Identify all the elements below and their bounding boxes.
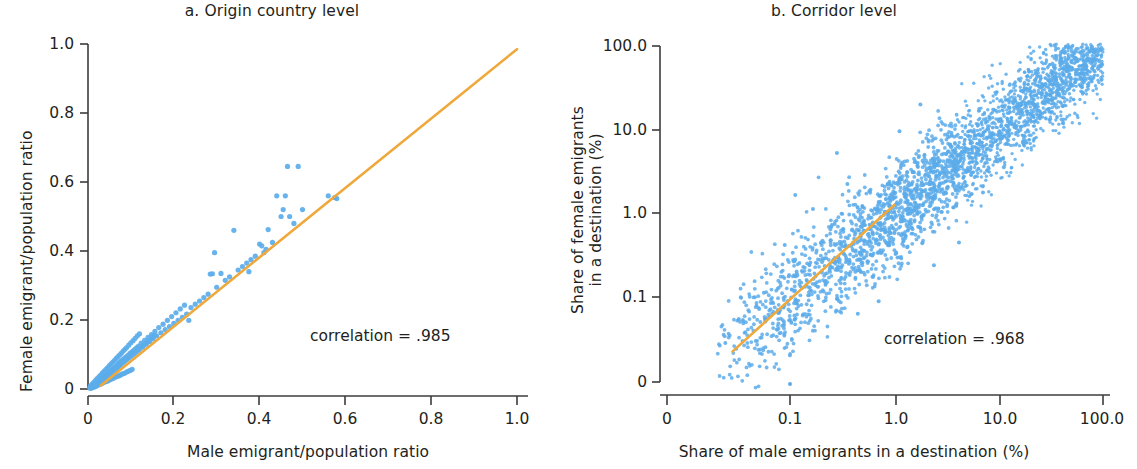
data-point bbox=[1083, 101, 1086, 104]
data-point bbox=[987, 190, 990, 193]
data-point bbox=[771, 301, 775, 305]
data-point bbox=[799, 321, 803, 325]
data-point bbox=[912, 193, 916, 197]
data-point bbox=[984, 129, 987, 132]
data-point bbox=[965, 104, 968, 107]
data-point bbox=[1036, 84, 1039, 87]
data-point bbox=[1014, 80, 1017, 83]
panel-a-data-points bbox=[87, 164, 339, 391]
data-point bbox=[859, 269, 863, 273]
data-point bbox=[1035, 110, 1038, 113]
data-point bbox=[160, 322, 165, 327]
data-point bbox=[1023, 119, 1026, 122]
data-point bbox=[898, 171, 902, 175]
panel-b-data-points bbox=[716, 42, 1105, 389]
data-point bbox=[1032, 124, 1035, 127]
data-point bbox=[1020, 103, 1023, 106]
data-point bbox=[877, 200, 881, 204]
data-point bbox=[949, 171, 953, 175]
data-point bbox=[1058, 72, 1061, 75]
data-point bbox=[968, 161, 971, 164]
data-point bbox=[933, 183, 937, 187]
data-point bbox=[865, 283, 869, 287]
data-point bbox=[753, 287, 757, 291]
data-point bbox=[971, 124, 974, 127]
data-point bbox=[893, 264, 897, 268]
data-point bbox=[801, 314, 805, 318]
data-point bbox=[1092, 75, 1095, 78]
data-point bbox=[904, 192, 908, 196]
data-point bbox=[1032, 144, 1035, 147]
data-point bbox=[1028, 45, 1031, 48]
data-point bbox=[883, 185, 887, 189]
data-point bbox=[772, 352, 776, 356]
data-point bbox=[960, 82, 963, 85]
data-point bbox=[794, 297, 798, 301]
data-point bbox=[806, 238, 810, 242]
data-point bbox=[1009, 122, 1012, 125]
data-point bbox=[1053, 54, 1056, 57]
data-point bbox=[188, 305, 193, 310]
data-point bbox=[936, 219, 940, 223]
data-point bbox=[794, 302, 798, 306]
data-point bbox=[891, 242, 895, 246]
data-point bbox=[763, 359, 767, 363]
data-point bbox=[829, 243, 833, 247]
data-point bbox=[1045, 60, 1048, 63]
data-point bbox=[1020, 149, 1023, 152]
data-point bbox=[1000, 176, 1003, 179]
data-point bbox=[883, 276, 887, 280]
data-point bbox=[877, 276, 881, 280]
data-point bbox=[905, 223, 909, 227]
data-point bbox=[1009, 171, 1012, 174]
data-point bbox=[1063, 92, 1066, 95]
data-point bbox=[864, 279, 868, 283]
data-point bbox=[997, 105, 1000, 108]
data-point bbox=[898, 206, 902, 210]
data-point bbox=[836, 268, 840, 272]
data-point bbox=[805, 302, 809, 306]
data-point bbox=[946, 150, 950, 154]
data-point bbox=[1023, 71, 1026, 74]
data-point bbox=[1053, 63, 1056, 66]
data-point bbox=[1072, 89, 1075, 92]
data-point bbox=[296, 164, 301, 169]
data-point bbox=[824, 252, 828, 256]
data-point bbox=[839, 276, 843, 280]
data-point bbox=[1096, 74, 1099, 77]
data-point bbox=[963, 138, 966, 141]
data-point-outlier bbox=[723, 341, 727, 345]
data-point bbox=[899, 255, 903, 259]
data-point bbox=[926, 132, 930, 136]
data-point bbox=[928, 187, 932, 191]
data-point bbox=[906, 175, 910, 179]
data-point bbox=[898, 225, 902, 229]
data-point bbox=[972, 137, 975, 140]
data-point bbox=[1019, 79, 1022, 82]
data-point bbox=[830, 223, 834, 227]
data-point bbox=[975, 169, 978, 172]
data-point bbox=[1035, 106, 1038, 109]
data-point bbox=[885, 257, 889, 261]
data-point bbox=[1086, 51, 1089, 54]
data-point bbox=[1084, 62, 1087, 65]
data-point bbox=[839, 243, 843, 247]
data-point bbox=[737, 358, 741, 362]
data-point bbox=[916, 225, 920, 229]
data-point bbox=[765, 366, 769, 370]
data-point bbox=[984, 117, 987, 120]
data-point bbox=[790, 288, 794, 292]
panel-a-axes bbox=[80, 44, 528, 405]
data-point bbox=[923, 156, 927, 160]
data-point bbox=[991, 94, 994, 97]
data-point bbox=[956, 133, 959, 136]
data-point bbox=[291, 221, 296, 226]
data-point bbox=[863, 185, 867, 189]
data-point bbox=[971, 160, 974, 163]
data-point bbox=[1050, 99, 1053, 102]
data-point bbox=[1081, 49, 1084, 52]
data-point bbox=[758, 364, 762, 368]
data-point bbox=[957, 168, 960, 171]
data-point bbox=[259, 243, 264, 248]
data-point bbox=[847, 189, 851, 193]
